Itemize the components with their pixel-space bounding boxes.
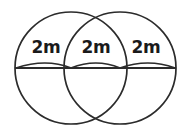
geometry-figure: 2m 2m 2m bbox=[0, 0, 191, 136]
label-middle-2m: 2m bbox=[81, 37, 110, 57]
label-right-2m: 2m bbox=[131, 37, 160, 57]
label-left-2m: 2m bbox=[31, 37, 60, 57]
diagram-canvas: 2m 2m 2m bbox=[0, 0, 191, 136]
